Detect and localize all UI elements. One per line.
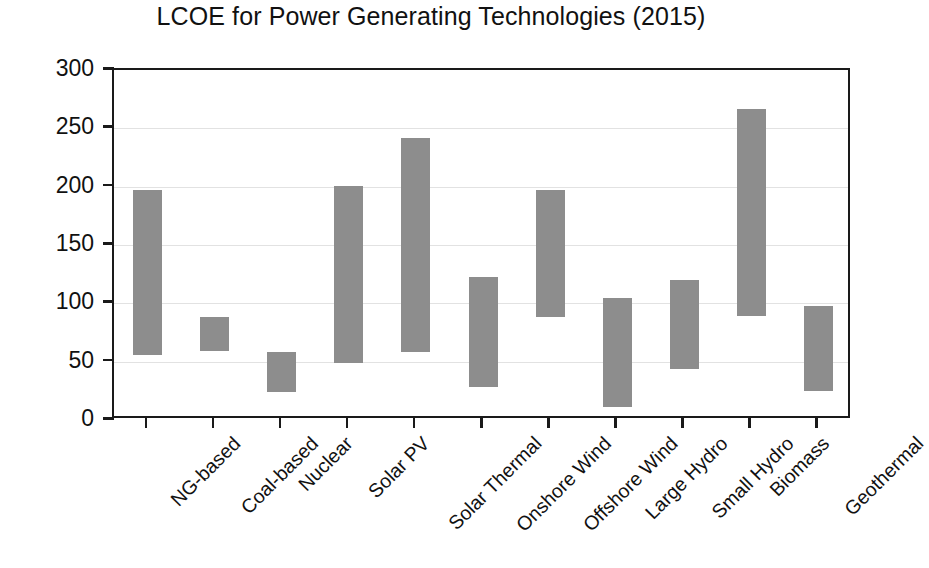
bar-ng-based	[133, 190, 162, 355]
bar-onshore-wind	[469, 277, 498, 388]
y-tick-label: 200	[36, 174, 94, 197]
x-tick-label-geothermal: Geothermal	[840, 432, 928, 520]
x-tick-mark	[815, 417, 818, 428]
bar-offshore-wind	[536, 190, 565, 317]
x-tick-mark	[480, 417, 483, 428]
x-tick-mark	[413, 417, 416, 428]
chart-title: LCOE for Power Generating Technologies (…	[0, 2, 862, 31]
bar-solar-pv	[334, 186, 363, 363]
y-tick-label: 50	[36, 349, 94, 372]
y-tick-label: 150	[36, 232, 94, 255]
bar-coal-based	[200, 317, 229, 351]
y-tick-label: 0	[36, 407, 94, 430]
bar-geothermal	[804, 306, 833, 391]
bar-biomass	[737, 109, 766, 317]
bar-large-hydro	[603, 298, 632, 408]
x-tick-label-ng-based: NG-based	[166, 432, 245, 511]
x-tick-mark	[279, 417, 282, 428]
y-tick-label: 300	[36, 57, 94, 80]
y-tick-label: 100	[36, 290, 94, 313]
bar-small-hydro	[670, 280, 699, 369]
x-tick-mark	[145, 417, 148, 428]
x-tick-mark	[614, 417, 617, 428]
x-tick-mark	[212, 417, 215, 428]
bar-solar-thermal	[401, 138, 430, 353]
x-tick-mark	[748, 417, 751, 428]
bar-nuclear	[267, 352, 296, 392]
plot-area	[112, 68, 850, 418]
x-tick-mark	[681, 417, 684, 428]
x-tick-label-solar-pv: Solar PV	[363, 432, 434, 503]
x-tick-mark	[346, 417, 349, 428]
y-tick-label: 250	[36, 115, 94, 138]
bars-layer	[114, 70, 848, 416]
x-tick-mark	[547, 417, 550, 428]
